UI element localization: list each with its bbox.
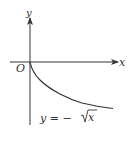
y-axis-label: y <box>25 7 32 18</box>
curve-neg-sqrt <box>30 62 113 109</box>
equation-label: y = − <box>39 112 72 125</box>
graph: y x O y = − x <box>0 0 130 141</box>
x-axis-label: x <box>119 56 126 69</box>
equation-prefix: y = − <box>39 112 72 125</box>
origin-label: O <box>16 62 25 75</box>
equation-radicand: x <box>88 111 95 124</box>
